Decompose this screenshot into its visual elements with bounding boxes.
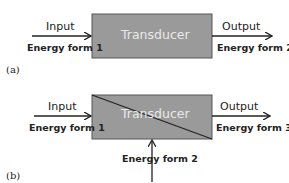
output-label-b: Output — [220, 100, 258, 113]
input-label-b: Input — [48, 100, 76, 113]
output-energy-b: Energy form 3 — [216, 122, 289, 133]
input-energy-b: Energy form 1 — [29, 122, 105, 133]
transducer-label-a: Transducer — [121, 27, 190, 42]
tag-b: (b) — [6, 170, 20, 181]
input-label-a: Input — [46, 20, 74, 33]
input-energy-a: Energy form 1 — [27, 42, 103, 53]
transducer-label-b: Transducer — [121, 106, 190, 121]
output-label-a: Output — [222, 20, 260, 33]
auxiliary-energy-b: Energy form 2 — [122, 153, 198, 164]
output-energy-a: Energy form 2 — [217, 42, 289, 53]
tag-a: (a) — [6, 64, 20, 75]
